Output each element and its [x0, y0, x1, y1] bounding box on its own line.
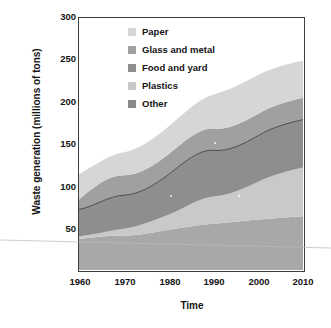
scan-speckle	[170, 195, 172, 197]
x-tick-1980: 1980	[148, 276, 192, 287]
scan-speckle	[238, 195, 240, 197]
chart-legend: Paper Glass and metal Food and yard Plas…	[128, 23, 238, 113]
legend-swatch-icon	[128, 64, 136, 72]
legend-swatch-icon	[128, 28, 136, 36]
y-tick-50: 50	[32, 224, 76, 234]
x-axis-title: Time	[78, 300, 306, 311]
y-tick-200: 200	[32, 97, 76, 107]
legend-item-paper: Paper	[128, 23, 238, 41]
legend-label-plastics: Plastics	[142, 81, 178, 91]
legend-label-glass-and-metal: Glass and metal	[142, 45, 215, 55]
legend-swatch-icon	[128, 46, 136, 54]
y-tick-150: 150	[32, 139, 76, 149]
legend-label-food-and-yard: Food and yard	[142, 63, 207, 73]
plot-area: Paper Glass and metal Food and yard Plas…	[78, 17, 305, 272]
x-tick-1970: 1970	[103, 276, 147, 287]
legend-item-plastics: Plastics	[128, 77, 238, 95]
legend-swatch-icon	[128, 100, 136, 108]
scan-speckle	[214, 142, 216, 144]
legend-swatch-icon	[128, 82, 136, 90]
y-tick-250: 250	[32, 54, 76, 64]
x-tick-2010: 2010	[281, 276, 325, 287]
legend-item-food-and-yard: Food and yard	[128, 59, 238, 77]
waste-generation-figure: Waste generation (millions of tons) 300 …	[0, 0, 331, 328]
x-tick-2000: 2000	[237, 276, 281, 287]
y-tick-100: 100	[32, 182, 76, 192]
y-tick-300: 300	[32, 12, 76, 22]
legend-label-other: Other	[142, 99, 167, 109]
legend-item-glass-and-metal: Glass and metal	[128, 41, 238, 59]
x-tick-1960: 1960	[58, 276, 102, 287]
legend-item-other: Other	[128, 95, 238, 113]
x-tick-1990: 1990	[192, 276, 236, 287]
legend-label-paper: Paper	[142, 27, 168, 37]
